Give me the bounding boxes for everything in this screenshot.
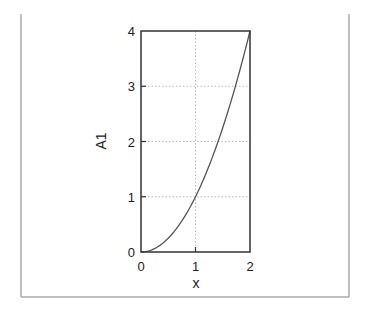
plot-area-box — [141, 31, 250, 252]
y-tick-label: 0 — [128, 245, 135, 260]
grid-lines — [141, 31, 250, 252]
y-tick-labels: 01234 — [128, 24, 135, 260]
y-axis-label: A1 — [93, 132, 109, 149]
data-series-curve — [141, 31, 250, 252]
outer-frame — [21, 14, 349, 297]
x-tick-label: 1 — [192, 259, 199, 274]
x-tick-label: 0 — [137, 259, 144, 274]
y-tick-label: 1 — [128, 190, 135, 205]
chart-canvas: 012 01234 x A1 — [0, 0, 366, 310]
axis-ticks — [141, 86, 196, 252]
y-tick-label: 3 — [128, 79, 135, 94]
x-tick-label: 2 — [246, 259, 253, 274]
y-tick-label: 2 — [128, 135, 135, 150]
x-tick-labels: 012 — [137, 259, 253, 274]
y-tick-label: 4 — [128, 24, 135, 39]
x-axis-label: x — [193, 275, 200, 291]
